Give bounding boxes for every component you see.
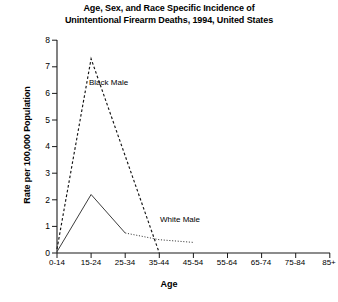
plot-area	[0, 0, 338, 302]
series-line-black-male	[57, 59, 159, 253]
series-line-white-male	[57, 195, 125, 252]
series-line-white-male-tail	[125, 233, 193, 242]
y-tick-marks	[52, 40, 57, 253]
x-tick-marks	[57, 253, 330, 258]
page-artifact-strip	[0, 293, 338, 302]
chart-figure: Age, Sex, and Race Specific Incidence of…	[0, 0, 338, 302]
